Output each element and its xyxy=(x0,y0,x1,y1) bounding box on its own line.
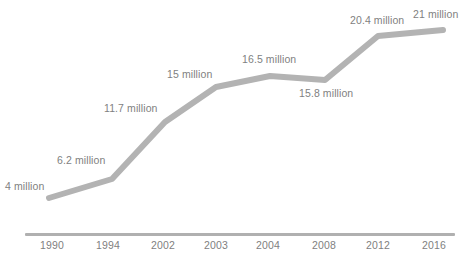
chart-plot-area xyxy=(0,0,465,255)
x-axis-tick-label: 2002 xyxy=(151,239,175,252)
line-chart: 4 million6.2 million11.7 million15 milli… xyxy=(0,0,465,255)
data-point-label: 16.5 million xyxy=(242,53,296,65)
x-axis-tick-label: 2004 xyxy=(256,239,280,252)
x-axis-tick-label: 2012 xyxy=(366,239,390,252)
data-point-label: 6.2 million xyxy=(57,154,105,166)
data-point-label: 15.8 million xyxy=(299,87,353,99)
x-axis-tick-label: 1994 xyxy=(96,239,120,252)
data-point-label: 15 million xyxy=(167,68,212,80)
x-axis-line xyxy=(25,233,455,236)
data-point-label: 11.7 million xyxy=(104,102,158,114)
data-point-label: 20.4 million xyxy=(350,14,404,26)
x-axis-tick-label: 2003 xyxy=(204,239,228,252)
x-axis-tick-label: 1990 xyxy=(40,239,64,252)
x-axis-tick-label: 2008 xyxy=(312,239,336,252)
data-point-label: 21 million xyxy=(413,8,458,20)
x-axis-tick-label: 2016 xyxy=(422,239,446,252)
data-point-label: 4 million xyxy=(5,180,44,192)
